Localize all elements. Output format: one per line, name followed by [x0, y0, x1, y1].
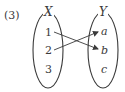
x-element-3: 3 [45, 64, 52, 75]
x-element-2: 2 [45, 45, 52, 56]
x-element-1: 1 [45, 27, 52, 38]
y-element-b: b [101, 45, 108, 56]
problem-number: (3) [4, 10, 20, 21]
mapping-diagram: (3) X Y 1 2 3 a b c [0, 0, 125, 92]
set-x-label: X [43, 6, 54, 18]
set-y-label: Y [98, 6, 108, 18]
y-element-a: a [101, 26, 108, 37]
y-element-c: c [101, 64, 107, 75]
